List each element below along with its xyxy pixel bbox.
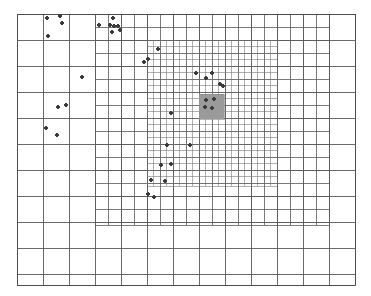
- particle-marker: [221, 84, 225, 88]
- particle-marker: [165, 143, 169, 147]
- amr-figure: [0, 0, 371, 296]
- particle-marker: [44, 126, 48, 130]
- particle-marker: [112, 24, 116, 28]
- particle-marker: [142, 60, 146, 64]
- particle-marker: [45, 16, 49, 20]
- particle-marker: [169, 162, 173, 166]
- particle-marker: [210, 106, 214, 110]
- particle-marker: [163, 179, 167, 183]
- particle-marker: [210, 71, 214, 75]
- particle-marker: [149, 178, 153, 182]
- particle-marker: [118, 28, 122, 32]
- particle-marker: [204, 98, 208, 102]
- particle-marker: [156, 47, 160, 51]
- amr-grid-canvas: [0, 0, 371, 296]
- particle-marker: [146, 192, 150, 196]
- particle-marker: [116, 24, 120, 28]
- particle-marker: [55, 133, 59, 137]
- particle-marker: [194, 71, 198, 75]
- particle-marker: [97, 23, 101, 27]
- particle-marker: [80, 75, 84, 79]
- particle-marker: [169, 111, 173, 115]
- particle-marker: [159, 163, 163, 167]
- particle-marker: [58, 14, 62, 18]
- particle-marker: [64, 103, 68, 107]
- particle-marker: [111, 16, 115, 20]
- particle-marker: [152, 195, 156, 199]
- particle-marker: [204, 76, 208, 80]
- particle-marker: [46, 34, 50, 38]
- particle-marker: [203, 105, 207, 109]
- particle-marker: [56, 105, 60, 109]
- particle-marker: [188, 143, 192, 147]
- particle-marker: [212, 97, 216, 101]
- particle-marker: [146, 57, 150, 61]
- particle-marker: [108, 23, 112, 27]
- particle-marker: [110, 30, 114, 34]
- particle-marker: [60, 21, 64, 25]
- figure-background: [0, 0, 371, 296]
